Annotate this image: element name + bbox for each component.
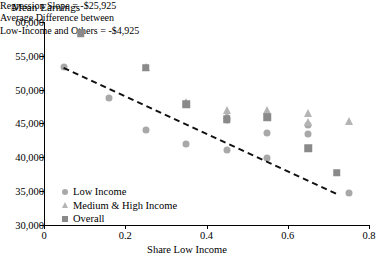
- legend-item: Low Income: [60, 185, 177, 199]
- legend-label: Low Income: [73, 185, 126, 199]
- x-axis-title: Share Low Income: [147, 244, 227, 255]
- legend-item: Overall: [60, 212, 177, 226]
- square-marker-icon: [60, 216, 70, 222]
- data-point: [304, 118, 312, 126]
- y-tick-mark: [40, 22, 44, 23]
- x-tick-label: 0.4: [200, 230, 213, 241]
- annotation-line: Average Difference between: [0, 12, 374, 24]
- data-point: [345, 190, 352, 197]
- legend-label: Overall: [73, 212, 105, 226]
- x-tick-label: 0: [41, 230, 46, 241]
- annotation-line: Low-Income and Others = -$4,925: [0, 25, 374, 37]
- data-point: [304, 109, 312, 117]
- y-tick-mark: [40, 56, 44, 57]
- data-point: [142, 64, 150, 72]
- data-point: [305, 131, 312, 138]
- x-tick-mark: [369, 225, 370, 229]
- triangle-marker-icon: [60, 202, 70, 208]
- data-point: [77, 30, 85, 38]
- legend-label: Medium & High Income: [73, 199, 177, 213]
- legend-item: Medium & High Income: [60, 199, 177, 213]
- y-axis-line: [44, 22, 45, 225]
- y-tick-label: 50,000: [6, 84, 44, 95]
- x-tick-mark: [288, 225, 289, 229]
- circle-marker-icon: [60, 189, 70, 195]
- data-point: [345, 117, 353, 125]
- data-point: [333, 169, 341, 177]
- x-tick-label: 0.8: [362, 230, 375, 241]
- y-tick-label: 55,000: [6, 50, 44, 61]
- y-tick-mark: [40, 90, 44, 91]
- y-tick-label: 60,000: [6, 17, 44, 28]
- data-point: [223, 146, 230, 153]
- x-tick-mark: [207, 225, 208, 229]
- y-tick-mark: [40, 191, 44, 192]
- y-tick-mark: [40, 157, 44, 158]
- data-point: [142, 127, 149, 134]
- y-tick-mark: [40, 123, 44, 124]
- data-point: [182, 101, 190, 109]
- x-tick-mark: [44, 225, 45, 229]
- data-point: [183, 140, 190, 147]
- y-tick-label: 35,000: [6, 185, 44, 196]
- regression-trend-line: [63, 67, 336, 194]
- chart-title: Mean Earnings: [12, 1, 80, 13]
- data-point: [223, 115, 231, 123]
- y-tick-label: 30,000: [6, 219, 44, 230]
- y-tick-label: 40,000: [6, 152, 44, 163]
- data-point: [264, 130, 271, 137]
- data-point: [304, 144, 312, 152]
- x-tick-label: 0.2: [119, 230, 132, 241]
- data-point: [106, 95, 113, 102]
- data-point: [264, 113, 272, 121]
- x-tick-label: 0.6: [281, 230, 294, 241]
- chart-legend: Low IncomeMedium & High IncomeOverall: [60, 185, 177, 226]
- y-tick-label: 45,000: [6, 118, 44, 129]
